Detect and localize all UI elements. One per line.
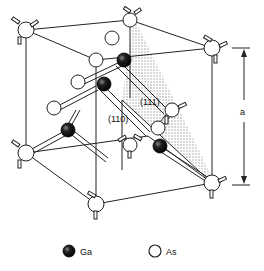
as-atom <box>18 145 34 161</box>
ga-atom <box>153 139 167 153</box>
as-atom <box>123 138 137 152</box>
lattice-constant-label: a <box>240 107 245 117</box>
as-atom <box>88 196 104 212</box>
ga-atom <box>97 77 111 91</box>
as-legend-icon <box>149 245 161 257</box>
ga-legend-label: Ga <box>80 247 92 257</box>
as-atom <box>47 101 61 115</box>
plane-110-label: (110) <box>108 114 128 124</box>
as-atom <box>151 121 165 135</box>
as-atom <box>204 175 220 191</box>
ga-legend-icon <box>63 245 75 257</box>
bond-stubs <box>12 6 228 219</box>
as-atom <box>165 103 179 117</box>
as-atom <box>89 53 103 67</box>
as-atom <box>71 75 85 89</box>
as-atoms <box>18 13 220 212</box>
gaas-crystal-diagram: (111) (110) a Ga As <box>0 0 264 271</box>
ga-atom <box>61 123 75 137</box>
as-atom <box>105 31 119 45</box>
plane-111-shading <box>122 18 215 183</box>
as-atom <box>204 40 220 56</box>
plane-111-label: (111) <box>140 97 160 107</box>
legend: Ga As <box>63 245 177 257</box>
as-legend-label: As <box>166 247 177 257</box>
ga-atom <box>117 53 131 67</box>
as-atom <box>123 13 137 27</box>
